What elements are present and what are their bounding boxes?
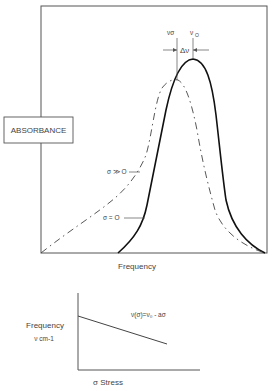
nu-zero-label: ν	[190, 29, 193, 36]
frequency-stress-line	[78, 316, 167, 344]
stress-plot-y-unit: ν cm-1	[34, 335, 54, 342]
nu-zero-subscript: O	[195, 32, 199, 38]
stressed-curve-label: σ ≫ O	[107, 168, 127, 175]
y-axis-label: ABSORBANCE	[11, 126, 67, 135]
unstressed-absorption-curve	[118, 59, 265, 253]
frequency-stress-equation: ν(σ)=ν₀ - aσ	[131, 311, 166, 319]
stressed-absorption-curve	[41, 80, 265, 253]
absorbance-plot-frame	[41, 6, 267, 253]
nu-sigma-label: νσ	[167, 29, 174, 36]
arrowhead-left-icon	[193, 48, 197, 52]
diagram-canvas: ABSORBANCE νσ ν O Δν σ ≫ O σ = O Frequen…	[0, 0, 272, 391]
unstressed-curve-label: σ = O	[103, 214, 119, 221]
stress-plot-x-label: σ Stress	[93, 378, 123, 387]
stress-plot-y-label: Frequency	[26, 321, 64, 330]
arrowhead-right-icon	[173, 48, 177, 52]
x-axis-label: Frequency	[118, 262, 156, 271]
delta-nu-label: Δν	[180, 46, 189, 55]
